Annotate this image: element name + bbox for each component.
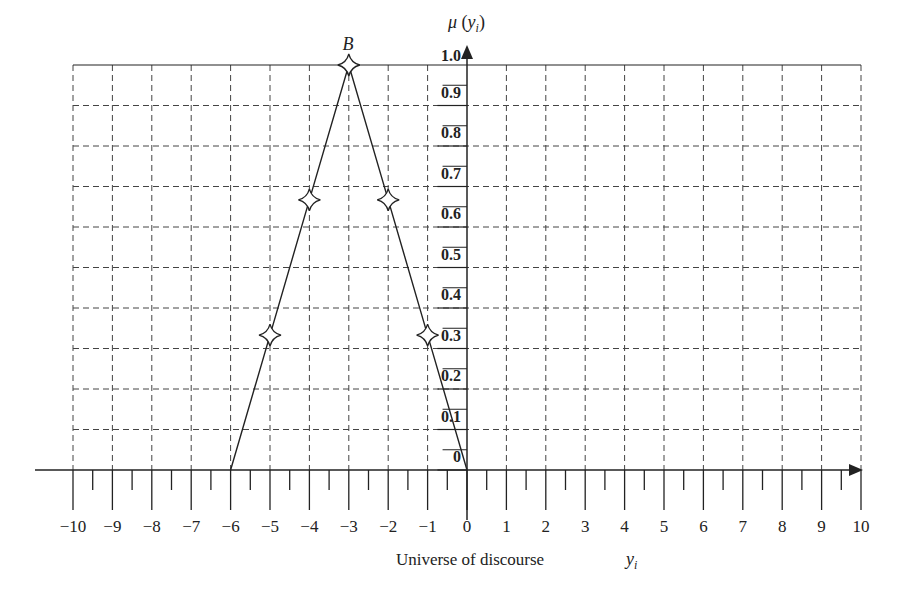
star-marker-icon <box>377 189 399 211</box>
star-marker-icon <box>259 324 281 346</box>
x-tick-label: −9 <box>103 517 121 536</box>
x-var: y <box>624 549 634 569</box>
y-tick-label: 0.9 <box>441 84 461 101</box>
y-title-open: ( <box>457 12 468 33</box>
y-title-var: y <box>466 12 476 32</box>
y-tick-label: 0.5 <box>441 246 461 263</box>
x-tick-label: 4 <box>620 517 629 536</box>
mu-symbol: μ <box>447 12 457 32</box>
y-tick-label: 0.4 <box>441 286 461 303</box>
y-tick-label: 0 <box>453 448 461 465</box>
x-tick-label: 8 <box>778 517 787 536</box>
fuzzy-membership-chart: −10−9−8−7−6−5−4−3−2−1012345678910 00.10.… <box>0 0 901 601</box>
x-tick-label: 10 <box>853 517 870 536</box>
x-tick-label: −2 <box>379 517 397 536</box>
x-tick-label: −6 <box>222 517 240 536</box>
y-tick-label: 0.6 <box>441 205 461 222</box>
x-tick-label: −1 <box>419 517 437 536</box>
y-tick-label: 0.2 <box>441 367 461 384</box>
x-tick-label: 6 <box>699 517 708 536</box>
y-axis-title: μ (yi) <box>447 12 485 35</box>
x-tick-label: −7 <box>182 517 201 536</box>
x-var-sub: i <box>634 558 637 572</box>
y-tick-label: 0.7 <box>441 165 461 182</box>
star-marker-icon <box>338 54 360 76</box>
x-tick-label: −5 <box>261 517 279 536</box>
x-tick-label: 1 <box>502 517 511 536</box>
y-tick-label: 0.3 <box>441 327 461 344</box>
x-tick-label: 5 <box>660 517 669 536</box>
x-axis-variable: yi <box>624 549 637 572</box>
x-tick-label: 2 <box>542 517 551 536</box>
x-tick-label: −8 <box>143 517 161 536</box>
x-tick-label: 9 <box>817 517 826 536</box>
x-axis-title: Universe of discourse <box>396 550 544 569</box>
star-marker-icon <box>298 189 320 211</box>
x-axis-ticks: −10−9−8−7−6−5−4−3−2−1012345678910 <box>60 470 870 536</box>
x-tick-label: 7 <box>739 517 748 536</box>
y-tick-label: 0.8 <box>441 124 461 141</box>
y-tick-label: 1.0 <box>441 47 461 64</box>
y-title-close: ) <box>479 12 485 33</box>
series-label-b: B <box>343 34 354 54</box>
x-tick-label: −4 <box>300 517 319 536</box>
x-tick-label: 0 <box>463 517 472 536</box>
x-tick-label: 3 <box>581 517 590 536</box>
axes <box>35 45 863 520</box>
y-axis-arrow-icon <box>461 45 473 59</box>
x-tick-label: −3 <box>340 517 358 536</box>
y-axis-ticks: 00.10.20.30.40.50.60.70.80.91.0 <box>437 47 467 470</box>
x-tick-label: −10 <box>60 517 87 536</box>
star-marker-icon <box>417 324 439 346</box>
